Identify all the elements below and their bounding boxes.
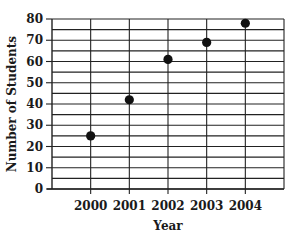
y-tick-label: 30	[26, 118, 43, 132]
y-tick-label: 10	[26, 161, 43, 175]
y-tick-label: 80	[26, 12, 43, 26]
data-point	[202, 38, 211, 47]
y-tick-label: 70	[26, 33, 43, 47]
x-tick-label: 2004	[229, 199, 262, 213]
x-axis-label: Year	[152, 219, 183, 233]
data-point	[241, 19, 250, 28]
y-tick-label: 40	[26, 97, 43, 111]
plot-grid	[47, 19, 284, 194]
x-tick-label: 2002	[151, 199, 184, 213]
y-tick-label: 50	[26, 76, 43, 90]
x-tick-label: 2003	[190, 199, 223, 213]
x-axis: 20002001200220032004	[74, 199, 262, 213]
x-tick-label: 2000	[74, 199, 107, 213]
scatter-chart: 01020304050607080 20002001200220032004 N…	[0, 0, 288, 237]
data-point	[163, 55, 172, 64]
y-tick-label: 60	[26, 55, 43, 69]
y-axis: 01020304050607080	[26, 12, 52, 196]
y-axis-label: Number of Students	[5, 36, 19, 172]
y-tick-label: 20	[26, 140, 43, 154]
x-tick-label: 2001	[113, 199, 146, 213]
data-point	[86, 131, 95, 140]
y-tick-label: 0	[35, 182, 43, 196]
data-point	[125, 95, 134, 104]
